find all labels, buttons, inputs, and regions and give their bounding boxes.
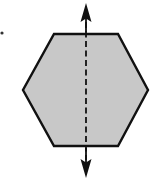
hexagon-symmetry-diagram — [0, 0, 158, 181]
bullet-marker — [0, 31, 3, 34]
